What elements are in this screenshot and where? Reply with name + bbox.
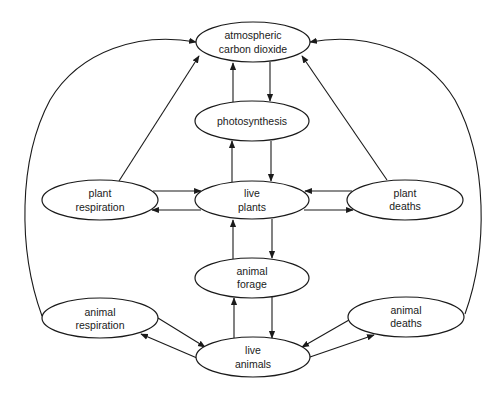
node-label-line2: carbon dioxide bbox=[219, 43, 287, 55]
node-animal-forage: animal forage bbox=[195, 258, 309, 298]
edge-animal-respiration-to-live-animals bbox=[158, 318, 205, 347]
node-label-line1: plant bbox=[89, 187, 112, 199]
edge-plant-deaths-to-co2 bbox=[302, 56, 387, 180]
node-label-line1: atmospheric bbox=[224, 29, 281, 41]
node-live-animals: live animals bbox=[196, 337, 310, 377]
node-plant-respiration: plant respiration bbox=[42, 180, 158, 220]
edge-plant-respiration-to-co2 bbox=[119, 56, 199, 181]
node-label-line2: forage bbox=[237, 278, 267, 290]
node-label-line1: live bbox=[245, 344, 261, 356]
node-label-line1: photosynthesis bbox=[217, 115, 287, 127]
node-label-line2: deaths bbox=[389, 200, 421, 212]
node-label-line2: respiration bbox=[75, 201, 124, 213]
node-shape bbox=[196, 337, 310, 377]
node-label-line2: plants bbox=[238, 201, 266, 213]
node-label-line1: animal bbox=[391, 304, 422, 316]
edge-animal-respiration-to-co2 bbox=[25, 39, 196, 316]
edge-live-animals-to-animal-respiration bbox=[141, 334, 197, 358]
carbon-cycle-diagram: atmospheric carbon dioxide photosynthesi… bbox=[0, 0, 503, 398]
node-shape bbox=[42, 298, 158, 338]
node-animal-respiration: animal respiration bbox=[42, 298, 158, 338]
node-live-plants: live plants bbox=[195, 181, 309, 219]
node-plant-deaths: plant deaths bbox=[347, 180, 463, 220]
node-label-line1: live bbox=[244, 187, 260, 199]
node-label-line2: animals bbox=[235, 358, 271, 370]
node-label-line2: deaths bbox=[390, 317, 422, 329]
edge-live-animals-to-animal-deaths bbox=[310, 335, 374, 357]
node-label-line1: animal bbox=[237, 265, 268, 277]
node-label-line1: animal bbox=[85, 306, 116, 318]
node-label-line1: plant bbox=[394, 187, 417, 199]
edge-animal-deaths-to-live-animals bbox=[302, 320, 349, 347]
node-photosynthesis: photosynthesis bbox=[195, 101, 309, 141]
node-shape bbox=[42, 180, 158, 220]
node-animal-deaths: animal deaths bbox=[348, 297, 464, 337]
node-shape bbox=[196, 22, 310, 62]
edge-animal-deaths-to-co2 bbox=[310, 39, 481, 314]
node-atmospheric-carbon-dioxide: atmospheric carbon dioxide bbox=[196, 22, 310, 62]
node-label-line2: respiration bbox=[75, 319, 124, 331]
